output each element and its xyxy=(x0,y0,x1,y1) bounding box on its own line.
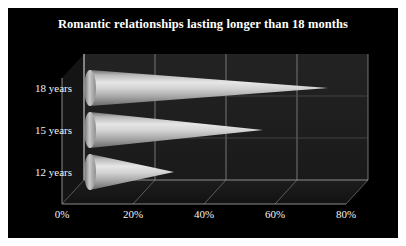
y-axis-label-12-years: 12 years xyxy=(16,166,72,178)
x-axis-tick-0: 0% xyxy=(42,208,82,220)
y-axis-label-18-years: 18 years xyxy=(16,82,72,94)
x-axis-tick-40: 40% xyxy=(184,208,224,220)
bar-12-years-base xyxy=(84,154,96,190)
y-axis-label-15-years: 15 years xyxy=(16,124,72,136)
bar-15-years-base xyxy=(84,112,96,148)
bar-18-years-base xyxy=(84,70,96,106)
plot-svg xyxy=(8,8,398,238)
plot-area: 18 years 15 years 12 years 0% 20% 40% 60… xyxy=(8,8,398,238)
chart-frame: Romantic relationships lasting longer th… xyxy=(8,8,398,238)
x-axis-tick-80: 80% xyxy=(326,208,366,220)
x-axis-tick-60: 60% xyxy=(255,208,295,220)
x-axis-tick-20: 20% xyxy=(113,208,153,220)
chart-root: Romantic relationships lasting longer th… xyxy=(0,0,406,246)
